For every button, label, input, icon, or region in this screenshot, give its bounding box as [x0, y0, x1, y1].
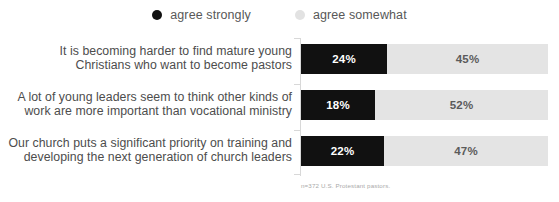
- chart-row: It is becoming harder to find mature you…: [0, 44, 559, 74]
- legend-item-agree-strongly: agree strongly: [152, 8, 251, 22]
- chart-legend: agree strongly agree somewhat: [0, 8, 559, 22]
- category-label: It is becoming harder to find mature you…: [6, 44, 292, 73]
- bar-segment-agree-strongly: 22%: [301, 136, 384, 166]
- category-label: Our church puts a significant priority o…: [6, 136, 292, 165]
- bar-value-agree-strongly: 24%: [332, 53, 356, 65]
- axis-tick: [294, 38, 300, 39]
- chart-footnote: n=372 U.S. Protestant pastors.: [301, 182, 390, 189]
- axis-tick: [294, 84, 300, 85]
- bar-value-agree-strongly: 18%: [326, 99, 350, 111]
- legend-label-agree-strongly: agree strongly: [170, 8, 251, 22]
- bar-segment-agree-somewhat: 52%: [375, 90, 548, 120]
- bar-value-agree-strongly: 22%: [331, 145, 355, 157]
- circle-filled-icon: [152, 10, 162, 20]
- stacked-bar-chart: agree strongly agree somewhat It is beco…: [0, 0, 559, 202]
- bar-track: 18% 52%: [301, 90, 548, 120]
- bar-track: 22% 47%: [301, 136, 548, 166]
- category-label-line: work are more important than vocational …: [6, 104, 292, 119]
- category-label-line: Our church puts a significant priority o…: [6, 136, 292, 151]
- category-label-line: It is becoming harder to find mature you…: [6, 44, 292, 59]
- legend-label-agree-somewhat: agree somewhat: [313, 8, 407, 22]
- category-label: A lot of young leaders seem to think oth…: [6, 90, 292, 119]
- bar-value-agree-somewhat: 47%: [454, 145, 478, 157]
- bar-value-agree-somewhat: 45%: [456, 53, 480, 65]
- axis-tick: [294, 130, 300, 131]
- bar-segment-agree-strongly: 24%: [301, 44, 387, 74]
- category-label-line: developing the next generation of church…: [6, 150, 292, 165]
- chart-row: Our church puts a significant priority o…: [0, 136, 559, 166]
- bar-value-agree-somewhat: 52%: [450, 99, 474, 111]
- category-label-line: A lot of young leaders seem to think oth…: [6, 90, 292, 105]
- bar-track: 24% 45%: [301, 44, 548, 74]
- bar-segment-agree-somewhat: 47%: [384, 136, 548, 166]
- axis-tick: [294, 174, 300, 175]
- circle-light-icon: [295, 10, 305, 20]
- category-label-line: Christians who want to become pastors: [6, 58, 292, 73]
- plot-area: It is becoming harder to find mature you…: [0, 36, 559, 176]
- bar-segment-agree-somewhat: 45%: [387, 44, 548, 74]
- bar-segment-agree-strongly: 18%: [301, 90, 375, 120]
- chart-row: A lot of young leaders seem to think oth…: [0, 90, 559, 120]
- legend-item-agree-somewhat: agree somewhat: [295, 8, 407, 22]
